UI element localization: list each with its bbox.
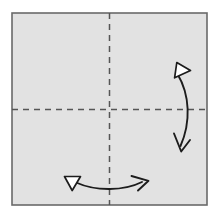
origami-figure-svg <box>0 0 222 216</box>
origami-diagram <box>0 0 222 216</box>
